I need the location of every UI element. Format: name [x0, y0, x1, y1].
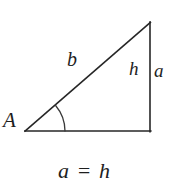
angle-arc	[56, 106, 65, 132]
geometry-figure: A b h a a = h	[0, 0, 169, 189]
side-label-a: a	[154, 61, 164, 80]
vertex-label-a: A	[3, 110, 16, 131]
side-label-h: h	[129, 59, 139, 78]
side-label-b: b	[67, 49, 77, 69]
equation-caption: a = h	[0, 158, 169, 184]
